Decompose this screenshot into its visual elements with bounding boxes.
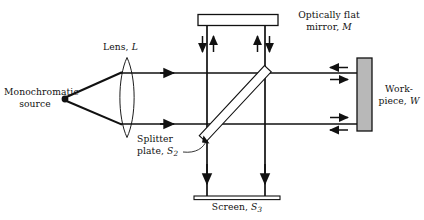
screen-label-text: Screen, [212,201,248,212]
label-lens: Lens, L [103,41,138,53]
workpiece-label-line2-text: piece, [379,95,407,106]
label-screen: Screen, S3 [189,201,285,216]
beam-splitter-plate [199,66,271,142]
mirror-label-symbol: M [342,21,352,32]
optics-ray-diagram [0,0,424,220]
splitter-label-line2-text: plate, [137,145,164,156]
lens-label-text: Lens, [103,41,129,52]
mirror-label-line2-text: mirror, [306,21,339,32]
label-workpiece: Work- piece, W [376,83,422,107]
figure-canvas: Monochromatic source Lens, L Optically f… [0,0,424,220]
label-splitter-plate: Splitter plate, S2 [137,133,178,160]
optically-flat-mirror [198,15,278,26]
mirror-label-line1: Optically flat [298,9,360,20]
source-label-line1: Monochromatic [4,86,79,97]
splitter-label-subscript: 2 [173,149,178,158]
workpiece-label-symbol: W [410,95,420,106]
splitter-label-line1: Splitter [137,133,173,144]
workpiece-label-line1: Work- [385,83,413,94]
workpiece-block [357,58,372,131]
screen-bar [194,196,280,200]
ray-source-lower [67,101,123,125]
lens-biconvex-outline [120,58,134,138]
label-optically-flat-mirror: Optically flat mirror, M [281,9,377,33]
lens-label-symbol: L [132,41,138,52]
source-label-line2: source [19,98,51,109]
label-monochromatic-source: Monochromatic source [4,86,66,110]
screen-label-subscript: 3 [258,205,263,214]
